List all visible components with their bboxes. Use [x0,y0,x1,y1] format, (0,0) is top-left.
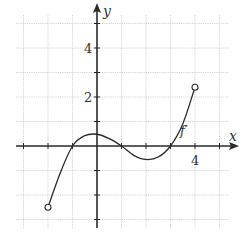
y-tick-label-2: 2 [84,90,92,105]
curve-label: f′ [179,123,188,138]
y-axis-label: y [102,3,112,19]
open-endpoint-left [45,204,51,210]
function-graph: y x 4 2 4 f′ [0,0,249,235]
x-axis-label: x [229,128,237,144]
y-tick-label-4: 4 [84,41,92,56]
grid-lines [16,15,229,229]
open-endpoint-right [192,84,198,90]
x-tick-label-4: 4 [191,153,199,168]
